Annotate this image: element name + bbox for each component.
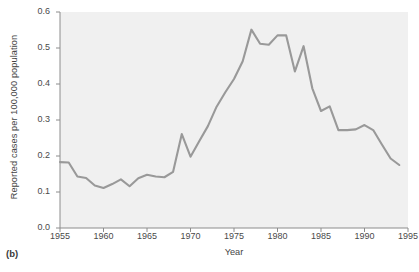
x-tick-label: 1970	[171, 231, 211, 241]
x-tick-label: 1980	[258, 231, 298, 241]
figure-panel-b: Reported cases per 100,000 population Ye…	[0, 0, 419, 272]
y-axis-label: Reported cases per 100,000 population	[9, 17, 19, 217]
y-tick-label: 0.2	[20, 150, 50, 160]
panel-tag: (b)	[6, 248, 18, 259]
y-tick-label: 0.5	[20, 42, 50, 52]
y-tick-label: 0.4	[20, 78, 50, 88]
x-tick-label: 1960	[84, 231, 124, 241]
x-tick-label: 1995	[388, 231, 419, 241]
y-tick-label: 0.1	[20, 186, 50, 196]
x-tick-label: 1990	[345, 231, 385, 241]
x-axis-label: Year	[60, 247, 408, 257]
x-tick-label: 1975	[214, 231, 254, 241]
y-tick-label: 0.3	[20, 114, 50, 124]
x-tick-label: 1955	[40, 231, 80, 241]
x-tick-label: 1965	[127, 231, 167, 241]
x-tick-label: 1985	[301, 231, 341, 241]
plot-background	[60, 12, 408, 228]
y-tick-label: 0.6	[20, 6, 50, 16]
